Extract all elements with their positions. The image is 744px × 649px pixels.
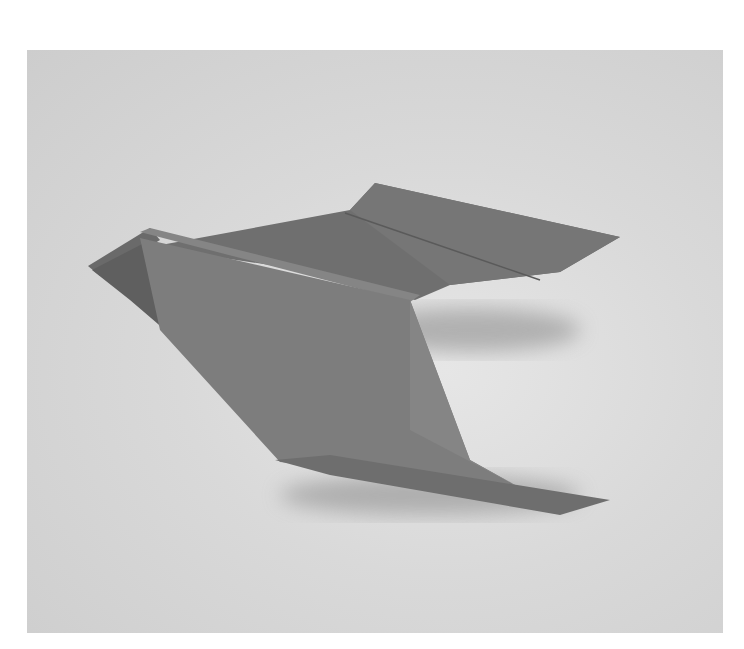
photograph bbox=[27, 50, 723, 633]
paper-airplane bbox=[27, 50, 723, 633]
